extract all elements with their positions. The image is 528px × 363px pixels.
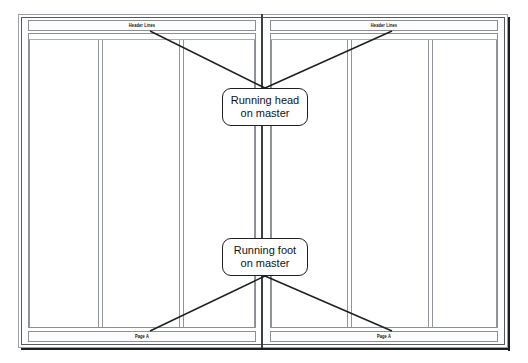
- left-page-top-margin-rule: [29, 39, 255, 40]
- left-page-footer-text: Page A: [135, 334, 149, 339]
- right-page-top-margin-rule: [271, 39, 497, 40]
- left-page-footer-band[interactable]: Page A: [28, 331, 256, 342]
- right-page-column-edge-end: [496, 40, 497, 327]
- left-page-gutter-2: [179, 40, 184, 327]
- frame-shadow-bottom: [21, 348, 510, 350]
- left-page-column-edge-end: [254, 40, 255, 327]
- right-page-column-grid: [270, 33, 498, 328]
- running-foot-callout[interactable]: Running foot on master: [222, 238, 308, 276]
- left-page[interactable]: Header Lines Page A: [24, 20, 260, 342]
- left-page-header-band[interactable]: Header Lines: [28, 20, 256, 31]
- running-head-callout-line1: Running head: [231, 94, 300, 107]
- running-foot-callout-line1: Running foot: [234, 244, 296, 257]
- running-head-callout-line2: on master: [241, 107, 290, 120]
- right-page-column-edge-start: [271, 40, 272, 327]
- right-page[interactable]: Header Lines Page A: [266, 20, 502, 342]
- right-page-gutter-1: [347, 40, 352, 327]
- right-page-footer-band[interactable]: Page A: [270, 331, 498, 342]
- master-page-diagram: Header Lines Page A Header Lines: [0, 0, 528, 363]
- page-spread: Header Lines Page A Header Lines: [24, 20, 502, 342]
- right-page-header-text: Header Lines: [371, 23, 397, 28]
- left-page-column-edge-start: [29, 40, 30, 327]
- right-page-gutter-2: [428, 40, 433, 327]
- frame-shadow-right: [508, 17, 510, 351]
- right-page-header-band[interactable]: Header Lines: [270, 20, 498, 31]
- running-head-callout[interactable]: Running head on master: [222, 88, 308, 126]
- left-page-header-text: Header Lines: [129, 23, 155, 28]
- left-page-column-grid: [28, 33, 256, 328]
- spread-spine: [261, 14, 263, 348]
- left-page-gutter-1: [98, 40, 103, 327]
- running-foot-callout-line2: on master: [241, 257, 290, 270]
- right-page-footer-text: Page A: [377, 334, 391, 339]
